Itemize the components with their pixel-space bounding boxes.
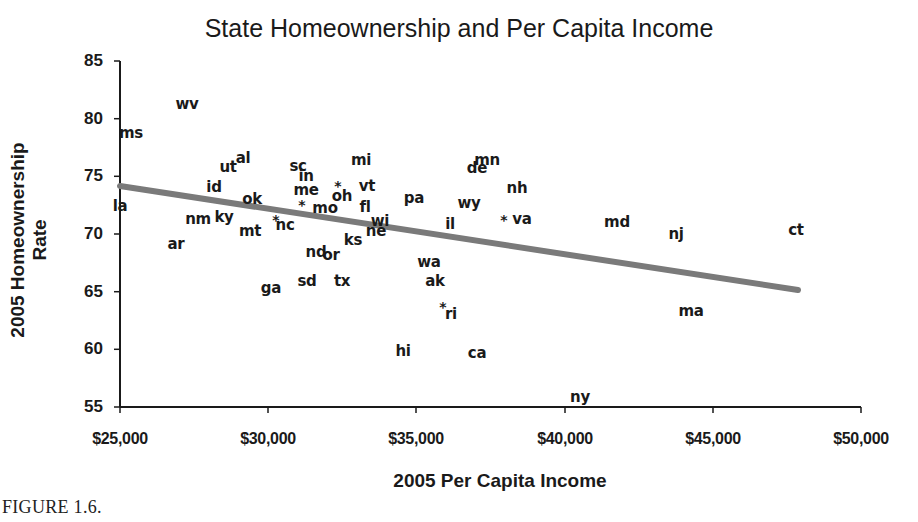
y-tick-75: 75 — [63, 167, 103, 185]
point-label: ok — [242, 192, 262, 207]
point-label: ak — [425, 274, 445, 289]
point-label: or — [322, 248, 339, 263]
point-label: ga — [261, 281, 281, 296]
point-label: hi — [395, 344, 410, 359]
point-label: pa — [404, 191, 424, 206]
point-label: mt — [239, 224, 261, 239]
point-label: mo — [312, 201, 337, 216]
point-label: sd — [297, 274, 316, 289]
point-label: mi — [351, 153, 371, 168]
figure-caption: FIGURE 1.6. — [2, 497, 102, 518]
point-label: de — [467, 161, 487, 176]
asterisk-marker: * — [298, 198, 305, 212]
y-tick-55: 55 — [63, 398, 103, 416]
y-tick-60: 60 — [63, 340, 103, 358]
point-label: ms — [119, 126, 143, 141]
point-label: wa — [417, 255, 440, 270]
point-label: id — [206, 180, 221, 195]
point-label: vt — [359, 179, 375, 194]
asterisk-marker: * — [500, 213, 507, 227]
point-label: ne — [366, 224, 386, 239]
point-label: nh — [507, 181, 528, 196]
point-label: fl — [359, 200, 370, 215]
y-axis-label: 2005 Homeownership Rate — [7, 130, 51, 350]
y-tick-85: 85 — [63, 52, 103, 70]
y-tick-65: 65 — [63, 283, 103, 301]
point-label: nm — [185, 212, 211, 227]
point-label: md — [604, 215, 630, 230]
point-label: ks — [344, 233, 362, 248]
point-label: tx — [334, 274, 350, 289]
y-tick-80: 80 — [63, 110, 103, 128]
x-tick-35000: $35,000 — [361, 430, 471, 448]
point-label: ri — [445, 307, 457, 322]
point-label: nj — [668, 227, 683, 242]
x-axis-label: 2005 Per Capita Income — [300, 470, 700, 492]
asterisk-marker: * — [439, 300, 446, 314]
point-label: la — [113, 199, 128, 214]
point-label: va — [512, 212, 531, 227]
point-label: ma — [678, 304, 703, 319]
x-tick-40000: $40,000 — [510, 430, 620, 448]
point-label: ar — [168, 237, 185, 252]
y-tick-70: 70 — [63, 225, 103, 243]
x-tick-45000: $45,000 — [658, 430, 768, 448]
point-label: wy — [457, 196, 480, 211]
point-label: wv — [175, 97, 198, 112]
point-label: ky — [214, 210, 233, 225]
point-label: il — [445, 217, 455, 232]
point-label: ny — [570, 390, 590, 405]
point-label: me — [293, 183, 318, 198]
asterisk-marker: * — [334, 179, 341, 193]
x-tick-50000: $50,000 — [806, 430, 916, 448]
point-label: ut — [219, 160, 236, 175]
asterisk-marker: * — [272, 213, 279, 227]
x-tick-25000: $25,000 — [65, 430, 175, 448]
x-tick-30000: $30,000 — [213, 430, 323, 448]
point-label: ct — [788, 223, 803, 238]
point-label: al — [236, 151, 251, 166]
point-label: ca — [468, 346, 486, 361]
